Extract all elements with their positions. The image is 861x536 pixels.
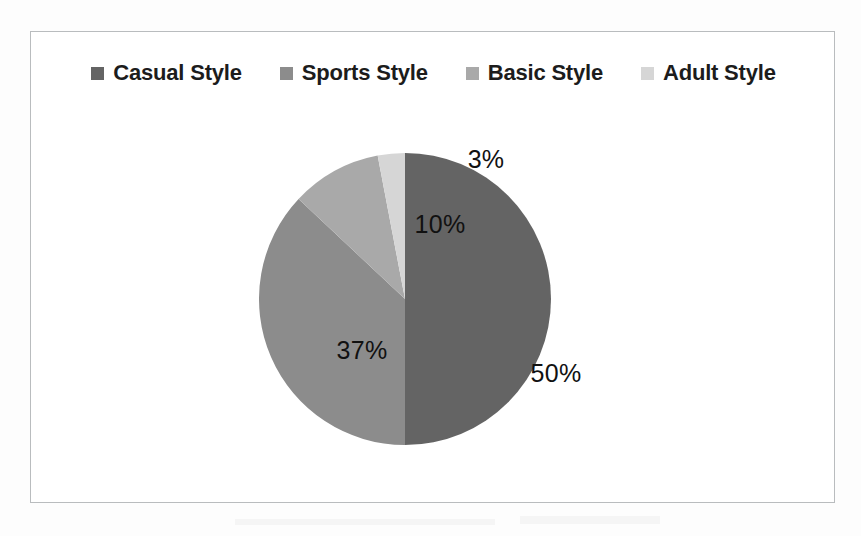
scan-artifact [520, 516, 660, 524]
slice-data-label-sports-style: 37% [337, 336, 388, 365]
slice-data-label-casual-style: 50% [531, 359, 582, 388]
pie-chart-plot-area: 50% 37% 10% 3% [31, 32, 836, 502]
slice-data-label-basic-style: 10% [415, 210, 466, 239]
pie-chart-svg [259, 153, 551, 445]
chart-frame: Casual Style Sports Style Basic Style Ad… [30, 31, 835, 503]
slice-data-label-adult-style: 3% [468, 145, 505, 174]
scan-artifact [235, 519, 495, 525]
pie-slice[interactable] [405, 153, 551, 445]
scanned-page-background: Casual Style Sports Style Basic Style Ad… [0, 0, 861, 536]
